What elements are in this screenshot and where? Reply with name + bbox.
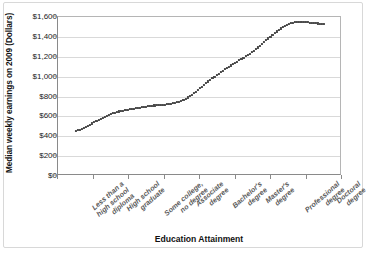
y-axis-tick-label: $0 — [11, 171, 57, 180]
x-axis-title: Education Attainment — [57, 234, 341, 244]
y-axis-tick-label: $400 — [11, 131, 57, 140]
data-point — [247, 54, 249, 56]
data-point — [207, 80, 209, 82]
x-axis-tick-mark — [93, 175, 94, 179]
x-axis-tick-mark — [341, 175, 342, 179]
y-axis-tick-label: $1,400 — [11, 31, 57, 40]
data-point — [199, 87, 201, 89]
gridline — [58, 57, 340, 58]
x-axis-tick-mark — [128, 175, 129, 179]
data-point — [203, 84, 205, 86]
gridline — [58, 156, 340, 157]
data-point — [251, 51, 253, 53]
y-axis: $0$200$400$600$800$1,000$1,200$1,400$1,6… — [0, 0, 57, 254]
data-point — [323, 23, 325, 25]
data-point — [271, 34, 273, 36]
data-point — [263, 41, 265, 43]
x-axis-tick-mark — [306, 175, 307, 179]
x-axis-tick-mark — [235, 175, 236, 179]
plot-area — [57, 16, 341, 175]
gridline — [58, 77, 340, 78]
data-point — [265, 39, 267, 41]
y-axis-tick-label: $1,600 — [11, 12, 57, 21]
data-point — [261, 43, 263, 45]
data-point — [201, 86, 203, 88]
x-axis-tick-mark — [199, 175, 200, 179]
x-axis-tick-mark — [270, 175, 271, 179]
x-axis-tick-mark — [164, 175, 165, 179]
y-axis-tick-label: $1,200 — [11, 51, 57, 60]
gridline — [58, 136, 340, 137]
y-axis-tick-label: $200 — [11, 151, 57, 160]
gridline — [58, 97, 340, 98]
data-point — [253, 50, 255, 52]
data-point — [267, 37, 269, 39]
chart-figure: Median weekly earnings on 2009 (Dollars)… — [0, 0, 366, 254]
data-point — [278, 29, 280, 31]
y-axis-tick-label: $1,000 — [11, 71, 57, 80]
data-point — [205, 82, 207, 84]
y-axis-tick-label: $800 — [11, 91, 57, 100]
data-point — [259, 45, 261, 47]
y-axis-tick-label: $600 — [11, 111, 57, 120]
x-axis-tick-mark — [57, 175, 58, 179]
data-point — [257, 46, 259, 48]
gridline — [58, 37, 340, 38]
